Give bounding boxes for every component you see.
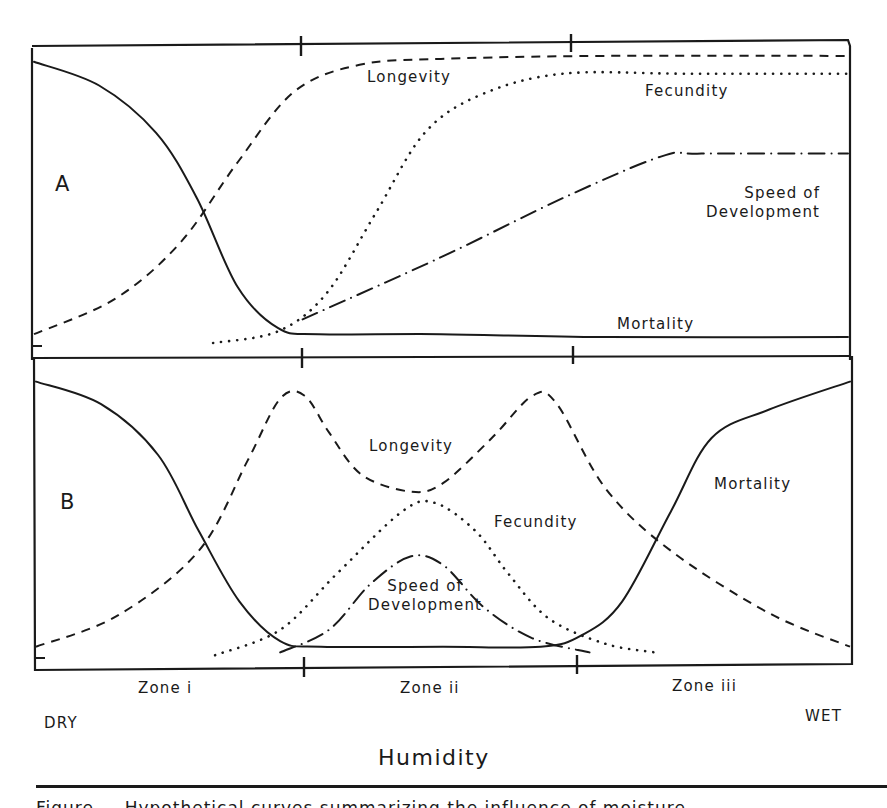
panel-a-speed-label: Speed of Development	[706, 184, 820, 222]
panel-b-fecundity-label: Fecundity	[494, 513, 578, 531]
panel-a-fecundity-label: Fecundity	[645, 82, 729, 100]
panel-b-frame	[34, 356, 852, 670]
panel-a-longevity-label: Longevity	[367, 68, 451, 86]
panel-b-speed-label-line1: Speed of	[368, 577, 482, 596]
panel-b-label: B	[60, 490, 74, 514]
panel-b-speed-label-line2: Development	[368, 596, 482, 615]
zone-ii-label: Zone ii	[400, 679, 460, 697]
panel-b-mortality-label: Mortality	[714, 475, 791, 493]
zone-iii-label: Zone iii	[672, 677, 737, 695]
panel-b-longevity-label: Longevity	[369, 437, 453, 455]
panel-a-speed-label-line1: Speed of	[706, 184, 820, 203]
caption-rule	[36, 785, 887, 788]
panel-divider	[32, 356, 850, 358]
figure-caption: Figure — Hypothetical curves summarizing…	[36, 798, 712, 808]
panel-b-speed-label: Speed of Development	[368, 577, 482, 615]
x-axis-title: Humidity	[378, 745, 490, 770]
panel-a-speed-of-development-curve	[303, 152, 848, 319]
panel-a-mortality-label: Mortality	[617, 315, 694, 333]
panel-a-speed-label-line2: Development	[706, 203, 820, 222]
dry-label: DRY	[44, 714, 78, 732]
zone-i-label: Zone i	[138, 679, 192, 697]
panel-a-label: A	[55, 172, 69, 196]
wet-label: WET	[805, 707, 842, 725]
